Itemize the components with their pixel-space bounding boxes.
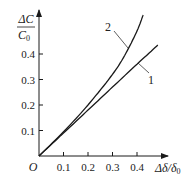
x-tick-label: 0.4 <box>130 161 144 173</box>
curve-2 <box>39 15 143 156</box>
x-tick-label: 0.1 <box>57 161 71 173</box>
svg-text:ΔC: ΔC <box>17 12 34 26</box>
y-axis-label: ΔC C0 <box>17 12 35 43</box>
y-tick-label: 0.2 <box>21 99 35 111</box>
y-tick-label: 0.1 <box>21 125 35 137</box>
x-ticks <box>64 152 138 156</box>
curve-2-label: 2 <box>105 20 111 34</box>
x-tick-label: 0.2 <box>81 161 95 173</box>
curve-1-leader <box>138 63 149 73</box>
chart: 0.1 0.2 0.3 0.4 0.1 0.2 0.3 0.4 O ΔC C0 … <box>0 0 191 180</box>
curve-2-leader <box>114 31 128 48</box>
x-axis-label: Δδ/δ0 <box>154 161 181 176</box>
svg-text:C0: C0 <box>18 28 30 43</box>
y-tick-label: 0.3 <box>21 74 35 86</box>
x-tick-label: 0.3 <box>106 161 120 173</box>
origin-label: O <box>29 160 38 174</box>
y-ticks <box>39 54 43 131</box>
y-tick-label: 0.4 <box>21 48 35 60</box>
curve-1-label: 1 <box>148 73 154 87</box>
